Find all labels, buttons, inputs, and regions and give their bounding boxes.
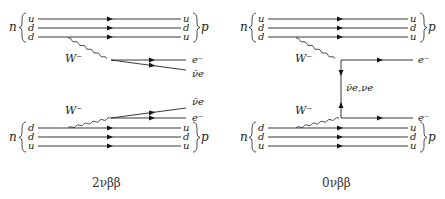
electron-top: e⁻ [418,54,429,65]
neutron-label: n [240,20,248,34]
w-label-bottom: W⁻ [295,104,312,117]
antineutrino-bottom: ν̄e [192,96,204,107]
quark-in-2: d [258,31,264,42]
quark-out-2: u [410,140,416,151]
top-nucleon: n u d d u d u p [240,13,436,42]
diagram-0vbb: n u d d u d u p W⁻ e⁻ ν̄e,νe [240,13,436,190]
quark-out-2: u [183,140,189,151]
w-boson-bottom [68,117,111,129]
quark-out-2: u [183,31,189,42]
quark-in-2: d [28,31,34,42]
electron-bottom: e⁻ [192,112,203,123]
w-boson-bottom [296,117,339,129]
electron-bottom: e⁻ [418,112,429,123]
quark-out-2: u [410,31,416,42]
top-nucleon: n u d d u d u p [9,13,209,42]
bottom-nucleon: n d d u u d u p [240,122,436,152]
neutrino-label: ν̄e,νe [346,82,373,93]
bottom-nucleon: n d d u u d u p [9,122,209,152]
w-label-top: W⁻ [65,52,82,65]
neutron-label: n [9,20,17,34]
w-label-top: W⁻ [295,52,312,65]
right-brace [193,13,200,42]
neutron-label: n [240,130,248,144]
proton-label: p [428,130,436,144]
caption-0vbb: 0νββ [322,176,351,190]
caption-2vbb: 2νββ [92,176,121,190]
proton-label: p [428,20,436,34]
neutron-label: n [9,130,17,144]
w-label-bottom: W⁻ [65,104,82,117]
quark-in-2: u [258,140,264,151]
proton-label: p [201,130,209,144]
quark-in-2: u [28,140,34,151]
proton-label: p [201,20,209,34]
electron-top: e⁻ [192,54,203,65]
antineutrino-top: ν̄e [192,68,204,79]
diagram-2vbb: n u d d u d u p W⁻ e⁻ ν̄e W⁻ [9,13,209,190]
left-brace [19,13,26,42]
